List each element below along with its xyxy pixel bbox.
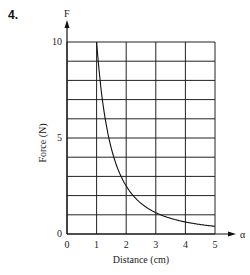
y-tick-label: 10 bbox=[52, 36, 62, 47]
force-distance-chart: Fα0123450510Distance (cm)Force (N) bbox=[0, 0, 250, 275]
x-axis-label: Distance (cm) bbox=[113, 254, 169, 266]
x-axis-arrow-icon bbox=[228, 232, 236, 237]
y-tick-label: 5 bbox=[57, 132, 62, 143]
x-axis-symbol: α bbox=[240, 229, 246, 240]
x-tick-label: 2 bbox=[124, 239, 129, 250]
y-tick-label: 0 bbox=[57, 228, 62, 239]
x-tick-label: 5 bbox=[213, 239, 218, 250]
y-axis-symbol: F bbox=[64, 8, 70, 19]
x-tick-label: 3 bbox=[153, 239, 158, 250]
y-axis-label: Force (N) bbox=[37, 123, 49, 162]
x-tick-label: 1 bbox=[94, 239, 99, 250]
x-tick-label: 4 bbox=[183, 239, 188, 250]
y-axis-arrow-icon bbox=[65, 20, 70, 28]
x-tick-label: 0 bbox=[65, 239, 70, 250]
